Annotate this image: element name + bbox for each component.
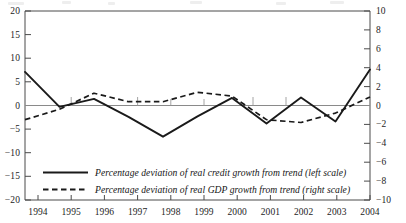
x-axis-tick-label: 1999 xyxy=(186,207,222,217)
scan-artifact xyxy=(108,2,115,5)
right-axis-tick-label: 4 xyxy=(376,63,402,73)
x-axis-tick-label: 2000 xyxy=(219,207,255,217)
x-axis-tick-label: 1997 xyxy=(120,207,156,217)
legend-label-credit: Percentage deviation of real credit grow… xyxy=(95,167,346,178)
left-axis-tick-label: 20 xyxy=(0,6,20,16)
right-axis-tick-label: −2 xyxy=(376,119,402,129)
right-axis-tick-label: −8 xyxy=(376,176,402,186)
x-axis-tick-label: 1996 xyxy=(86,207,122,217)
left-axis-tick-label: −20 xyxy=(0,195,20,205)
scan-artifact xyxy=(8,2,24,5)
right-axis-tick-label: 8 xyxy=(376,25,402,35)
left-axis-tick-label: 0 xyxy=(0,101,20,111)
x-axis-ticks xyxy=(38,195,370,200)
right-axis-tick-label: −10 xyxy=(376,195,402,205)
x-axis-tick-label: 1998 xyxy=(153,207,189,217)
right-axis-tick-label: −6 xyxy=(376,157,402,167)
right-axis-tick-label: 2 xyxy=(376,82,402,92)
x-axis-tick-label: 2001 xyxy=(252,207,288,217)
left-axis-tick-label: −5 xyxy=(0,124,20,134)
right-axis-tick-label: 0 xyxy=(376,101,402,111)
scan-artifact xyxy=(190,1,202,4)
right-axis-tick-label: 6 xyxy=(376,44,402,54)
x-axis-tick-label: 2003 xyxy=(319,207,355,217)
scan-artifact xyxy=(62,1,71,4)
chart-figure: 20 15 10 5 0 −5 −10 −15 −20 10 8 6 4 2 0… xyxy=(0,0,406,223)
scan-artifact xyxy=(276,2,286,5)
left-axis-tick-label: 5 xyxy=(0,77,20,87)
x-axis-tick-label: 1994 xyxy=(20,207,56,217)
left-axis-tick-label: −10 xyxy=(0,148,20,158)
right-axis-tick-label: 10 xyxy=(376,6,402,16)
x-axis-tick-label: 2002 xyxy=(286,207,322,217)
left-axis-tick-label: −15 xyxy=(0,171,20,181)
legend-label-gdp: Percentage deviation of real GDP growth … xyxy=(95,184,350,195)
x-axis-tick-label: 2004 xyxy=(352,207,388,217)
left-axis-tick-label: 15 xyxy=(0,30,20,40)
series-line-credit xyxy=(25,70,370,137)
x-axis-tick-label: 1995 xyxy=(53,207,89,217)
right-axis-tick-label: −4 xyxy=(376,138,402,148)
series-line-gdp xyxy=(25,92,370,122)
left-axis-tick-label: 10 xyxy=(0,53,20,63)
scan-artifact xyxy=(330,1,344,4)
